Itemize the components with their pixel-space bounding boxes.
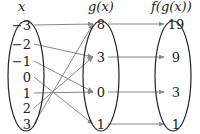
x-value: 3	[23, 117, 31, 132]
arrow-x-to-g	[34, 24, 93, 25]
g-value: 1	[97, 117, 105, 132]
g-value: 0	[97, 85, 105, 100]
f-value: 3	[172, 85, 180, 100]
header-g: g(x)	[88, 0, 114, 14]
header-x: x	[18, 0, 26, 14]
x-value: −2	[12, 37, 31, 52]
arrow-x-to-g	[34, 24, 93, 124]
f-ellipse	[155, 21, 191, 131]
x-value: 0	[23, 70, 31, 85]
x-value: −1	[12, 54, 31, 69]
g-value: 3	[97, 50, 105, 65]
header-f: f(g(x))	[150, 0, 192, 14]
arrow-x-to-g	[34, 61, 93, 92]
f-value: 1	[172, 117, 180, 132]
f-value: 9	[172, 50, 180, 65]
f-value: 19	[168, 17, 185, 32]
x-value: −3	[12, 18, 31, 33]
x-value: 2	[23, 101, 31, 116]
x-value: 1	[23, 86, 31, 101]
mapping-diagram: x g(x) f(g(x)) −3−2−10123830119931	[0, 0, 200, 134]
g-ellipse	[83, 21, 119, 131]
g-value: 8	[97, 17, 105, 32]
